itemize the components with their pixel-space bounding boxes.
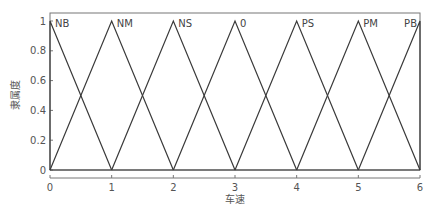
- series-line-0: [173, 21, 296, 170]
- x-axis-label: 车速: [225, 193, 245, 205]
- series-label: PS: [302, 18, 314, 29]
- series-label: 0: [240, 18, 246, 29]
- y-tick-label: 0.6: [30, 75, 46, 86]
- membership-function-chart: 00.20.40.60.81 0123456 NBNMNS0PSPMPB 车速 …: [0, 0, 436, 219]
- series-line-PS: [235, 21, 358, 170]
- x-tick-label: 5: [355, 182, 361, 193]
- y-tick-label: 0.8: [30, 45, 46, 56]
- series-label: PB: [404, 18, 417, 29]
- y-tick-label: 0.4: [30, 105, 46, 116]
- x-tick-label: 4: [293, 182, 299, 193]
- y-tick-label: 0.2: [30, 135, 46, 146]
- series-line-PM: [297, 21, 420, 170]
- series-label: NM: [117, 18, 133, 29]
- x-tick-label: 0: [47, 182, 53, 193]
- x-tick-label: 1: [108, 182, 114, 193]
- x-tick-label: 2: [170, 182, 176, 193]
- x-tick-label: 3: [232, 182, 238, 193]
- y-tick-label: 0: [40, 165, 46, 176]
- x-tick-label: 6: [417, 182, 423, 193]
- y-tick-label: 1: [40, 16, 46, 27]
- y-axis-label: 隶属度: [9, 80, 21, 110]
- series-line-NM: [50, 21, 173, 170]
- series-label: NB: [55, 18, 69, 29]
- series-label: PM: [363, 18, 378, 29]
- series-line-NS: [112, 21, 235, 170]
- series-label: NS: [178, 18, 192, 29]
